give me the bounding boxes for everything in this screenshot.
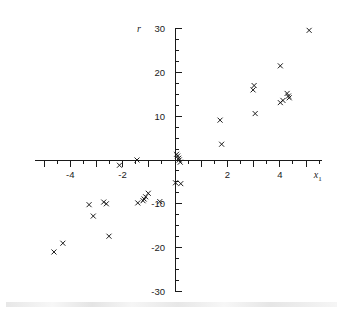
data-points-group: [51, 28, 311, 255]
data-point: [278, 100, 283, 105]
data-point: [218, 118, 223, 123]
y-axis-tick-label: 20: [154, 67, 165, 78]
data-point: [87, 202, 92, 207]
data-point: [307, 28, 312, 33]
data-point: [91, 214, 96, 219]
data-point: [142, 196, 147, 201]
x-axis-title: x1: [313, 169, 322, 183]
data-point: [253, 111, 258, 116]
data-point: [104, 201, 109, 206]
data-point: [51, 249, 56, 254]
data-point: [60, 241, 65, 246]
data-point: [178, 181, 183, 186]
y-axis-tick-label: 10: [154, 111, 165, 122]
x-axis-tick-label: 4: [277, 169, 282, 180]
y-axis-tick-label: 30: [154, 23, 165, 34]
data-point: [135, 200, 140, 205]
axis-titles-group: rx1: [137, 23, 322, 182]
data-point: [117, 163, 122, 168]
data-point: [278, 63, 283, 68]
scatter-plot-figure: -4-224302010-10-20-30 rx1: [0, 0, 343, 310]
x-axis-tick-label: -2: [118, 169, 126, 180]
y-axis-tick-label: -20: [151, 242, 165, 253]
plot-canvas: -4-224302010-10-20-30 rx1: [0, 0, 343, 310]
y-axis-title: r: [137, 23, 141, 34]
x-axis-tick-label: 2: [225, 169, 230, 180]
data-point: [219, 142, 224, 147]
y-axis-tick-label: -30: [151, 286, 165, 297]
data-point: [101, 200, 106, 205]
data-point: [146, 191, 151, 196]
data-point: [251, 87, 256, 92]
x-axis-tick-label: -4: [66, 169, 74, 180]
data-point: [173, 180, 178, 185]
data-point: [252, 83, 257, 88]
page-edge-artifact: [6, 302, 337, 307]
data-point: [106, 234, 111, 239]
x-axis-title-subscript: 1: [318, 175, 322, 183]
